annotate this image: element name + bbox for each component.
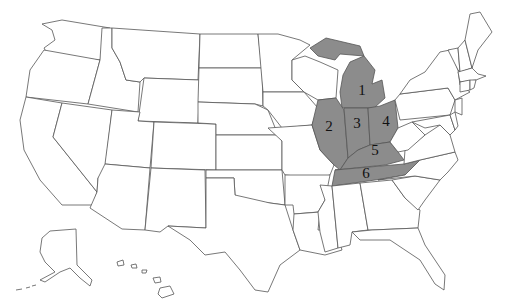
state-new-mexico[interactable] xyxy=(145,168,206,232)
state-colorado[interactable] xyxy=(151,122,216,170)
state-alaska[interactable] xyxy=(40,229,92,286)
state-hawaii-4[interactable] xyxy=(153,277,161,283)
state-hawaii-1[interactable] xyxy=(117,260,124,266)
state-north-dakota[interactable] xyxy=(199,34,262,68)
state-hawaii-3[interactable] xyxy=(142,270,147,273)
state-new-jersey[interactable] xyxy=(455,98,462,115)
state-connecticut[interactable] xyxy=(460,80,470,92)
state-wyoming[interactable] xyxy=(138,78,200,123)
region-label-6: 6 xyxy=(362,165,370,181)
state-oregon[interactable] xyxy=(26,50,100,104)
state-hawaii-2[interactable] xyxy=(131,264,137,268)
state-florida[interactable] xyxy=(352,228,445,290)
region-label-3: 3 xyxy=(353,115,361,131)
state-kansas[interactable] xyxy=(216,135,282,170)
state-rhode-island[interactable] xyxy=(470,80,476,90)
aleutian-islands xyxy=(16,285,36,290)
state-south-dakota[interactable] xyxy=(198,68,263,106)
region-label-2: 2 xyxy=(325,118,333,134)
region-label-4: 4 xyxy=(382,113,390,129)
state-michigan-upper[interactable] xyxy=(310,38,364,60)
region-label-1: 1 xyxy=(358,82,366,98)
state-montana[interactable] xyxy=(112,28,200,82)
us-map: 1 2 3 4 5 6 xyxy=(0,0,514,306)
state-hawaii-5[interactable] xyxy=(158,286,174,298)
region-label-5: 5 xyxy=(371,142,379,158)
